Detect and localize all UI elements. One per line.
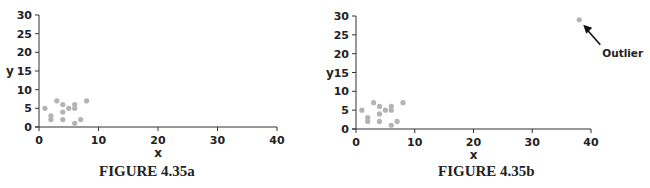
x-tick-label: 0 xyxy=(352,136,360,149)
data-point xyxy=(60,109,65,114)
data-point xyxy=(400,100,405,105)
data-points xyxy=(42,98,89,126)
data-point xyxy=(395,119,400,124)
data-point xyxy=(72,106,77,111)
plot-area-b: 051015202530010203040xyOutlier xyxy=(320,0,650,188)
x-axis-title: x xyxy=(470,148,478,162)
figure-caption-b: FIGURE 4.35b xyxy=(438,163,535,180)
scatter-chart-b: 051015202530010203040xyOutlier FIGURE 4.… xyxy=(320,0,650,188)
y-tick-label: 10 xyxy=(17,84,33,97)
x-tick-label: 40 xyxy=(583,136,599,149)
y-tick-label: 0 xyxy=(341,123,349,136)
x-axis-title: x xyxy=(154,146,162,160)
data-point xyxy=(377,111,382,116)
data-point xyxy=(72,121,77,126)
y-tick-label: 15 xyxy=(334,67,349,80)
data-point xyxy=(42,106,47,111)
data-point xyxy=(389,108,394,113)
scatter-chart-a: 051015202530010203040xy FIGURE 4.35a xyxy=(0,0,320,188)
data-point xyxy=(365,119,370,124)
plot-area-a: 051015202530010203040xy xyxy=(0,0,320,188)
arrow-head-icon xyxy=(583,25,592,34)
x-tick-label: 40 xyxy=(269,134,285,147)
data-point xyxy=(377,119,382,124)
data-point xyxy=(54,98,59,103)
y-tick-label: 10 xyxy=(334,85,350,98)
x-tick-label: 0 xyxy=(35,134,43,147)
x-tick-label: 10 xyxy=(407,136,423,149)
y-tick-label: 0 xyxy=(24,121,32,134)
data-point xyxy=(359,108,364,113)
data-point xyxy=(84,98,89,103)
data-point xyxy=(371,100,376,105)
data-points xyxy=(359,17,582,128)
data-point xyxy=(48,117,53,122)
data-point xyxy=(60,117,65,122)
x-tick-label: 30 xyxy=(210,134,226,147)
outlier-label: Outlier xyxy=(602,47,644,59)
data-point xyxy=(60,102,65,107)
outlier-annotation: Outlier xyxy=(583,25,644,59)
y-tick-label: 20 xyxy=(17,46,33,59)
data-point xyxy=(377,104,382,109)
data-point xyxy=(577,17,582,22)
y-tick-label: 30 xyxy=(17,9,33,22)
y-tick-label: 25 xyxy=(334,29,349,42)
x-tick-label: 10 xyxy=(91,134,107,147)
figure-caption-a: FIGURE 4.35a xyxy=(99,163,195,180)
y-tick-label: 15 xyxy=(17,65,32,78)
y-tick-label: 20 xyxy=(334,48,350,61)
y-axis-title: y xyxy=(6,64,14,78)
axes: 051015202530010203040 xyxy=(17,9,285,147)
data-point xyxy=(78,117,83,122)
y-tick-label: 5 xyxy=(24,102,32,115)
y-tick-label: 30 xyxy=(334,10,350,23)
data-point xyxy=(66,106,71,111)
y-tick-label: 25 xyxy=(17,28,32,41)
x-tick-label: 30 xyxy=(525,136,541,149)
data-point xyxy=(389,123,394,128)
y-tick-label: 5 xyxy=(341,104,349,117)
y-axis-title: y xyxy=(326,66,334,80)
data-point xyxy=(383,108,388,113)
axes: 051015202530010203040 xyxy=(334,10,599,149)
